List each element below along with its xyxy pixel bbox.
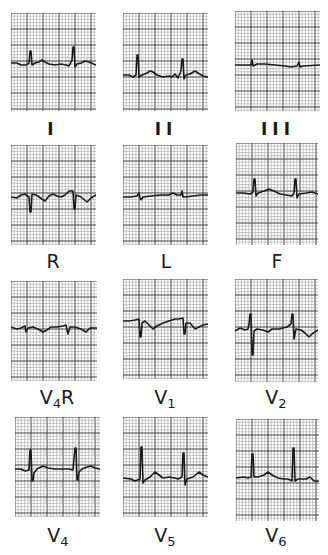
ecg-grid-l <box>123 145 208 245</box>
lead-label-ii: II <box>136 119 196 138</box>
ecg-panel-i <box>11 13 96 111</box>
ecg-grid-v4r <box>11 281 97 381</box>
lead-label-subscript: 1 <box>167 396 175 411</box>
ecg-panel-v5 <box>123 417 208 517</box>
lead-label-main: I <box>47 119 58 139</box>
ecg-panel-ii <box>123 13 208 111</box>
lead-label-main: V <box>265 386 278 408</box>
lead-label-main: V <box>265 524 278 546</box>
ecg-panel-v1 <box>123 279 208 379</box>
lead-label-main: V <box>40 386 53 408</box>
lead-label-subscript: 2 <box>278 396 286 411</box>
ecg-grid-v4 <box>15 417 100 517</box>
lead-label-subscript: 6 <box>278 534 286 549</box>
lead-label-main: R <box>46 250 59 272</box>
lead-label-l: L <box>136 252 196 271</box>
lead-label-v2: V2 <box>246 388 306 410</box>
lead-label-subscript: 4 <box>53 396 61 411</box>
ecg-panel-v4r <box>11 281 97 381</box>
lead-label-subscript: 4 <box>60 534 68 549</box>
lead-label-main: V <box>154 524 167 546</box>
lead-label-main: II <box>155 119 178 139</box>
lead-label-i: I <box>23 119 83 138</box>
lead-label-v4: V4 <box>28 526 88 548</box>
ecg-grid-v6 <box>236 419 319 521</box>
ecg-panel-v2 <box>235 279 318 382</box>
ecg-panel-iii <box>235 11 320 111</box>
ecg-grid-iii <box>235 11 320 111</box>
ecg-panel-l <box>123 145 208 245</box>
ecg-panel-r <box>11 145 96 245</box>
ecg-grid-v5 <box>123 417 208 517</box>
lead-label-f: F <box>247 252 307 271</box>
ecg-grid-ii <box>123 13 208 111</box>
lead-label-iii: III <box>248 119 308 138</box>
ecg-panel-v4 <box>15 417 100 517</box>
lead-label-main: V <box>47 524 60 546</box>
lead-label-main: V <box>154 386 167 408</box>
ecg-grid-f <box>236 143 318 245</box>
lead-label-r: R <box>23 252 83 271</box>
ecg-grid-v1 <box>123 279 208 379</box>
lead-label-suffix: R <box>61 386 74 408</box>
lead-label-main: F <box>272 250 283 272</box>
lead-label-v1: V1 <box>135 388 195 410</box>
lead-label-main: III <box>261 119 295 139</box>
lead-label-main: L <box>161 250 172 272</box>
ecg-grid-v2 <box>235 279 318 382</box>
ecg-grid-r <box>11 145 96 245</box>
ecg-panel-v6 <box>236 419 319 521</box>
lead-label-subscript: 5 <box>167 534 175 549</box>
lead-label-v4r: V4R <box>27 388 87 410</box>
lead-label-v5: V5 <box>135 526 195 548</box>
ecg-panel-f <box>236 143 318 245</box>
lead-label-v6: V6 <box>246 526 306 548</box>
ecg-grid-i <box>11 13 96 111</box>
